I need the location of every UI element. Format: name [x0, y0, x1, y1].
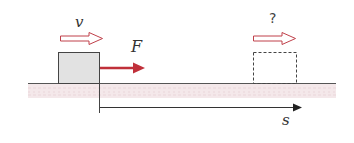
block-final-dashed: [254, 53, 297, 84]
displacement-label: s: [282, 111, 290, 129]
block-initial: [59, 53, 100, 84]
displacement-arrowhead-icon: [293, 104, 302, 112]
force-label: F: [130, 37, 143, 56]
velocity-initial-label: v: [75, 13, 84, 31]
velocity-initial-arrow-icon: [61, 33, 103, 45]
force-arrowhead-icon: [133, 63, 145, 74]
velocity-final-arrow-icon: [254, 33, 296, 45]
ground-surface: [28, 84, 336, 98]
work-energy-diagram: v F ? s: [0, 0, 354, 143]
velocity-final-label: ?: [269, 10, 276, 26]
